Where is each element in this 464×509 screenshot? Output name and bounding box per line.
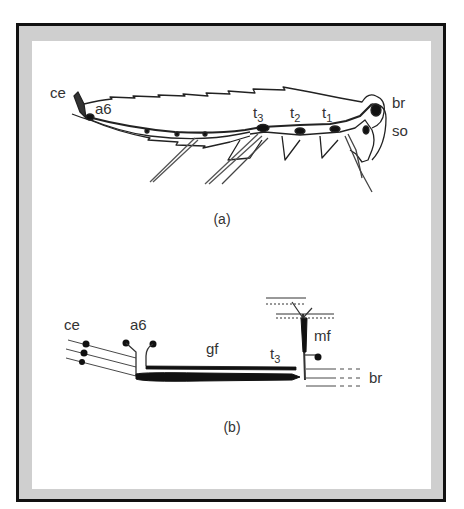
a6-neurite	[126, 343, 136, 376]
sensory-cell	[79, 359, 85, 365]
ganglion	[175, 132, 179, 136]
caption-a: (a)	[213, 211, 230, 227]
motor-fibre	[301, 318, 307, 352]
sensory-cell	[83, 341, 90, 348]
ganglion-a6	[86, 114, 94, 120]
label-t1: t1	[322, 104, 332, 124]
sensory-cell	[81, 350, 88, 357]
label-so: so	[392, 122, 408, 139]
sensory-axon	[66, 349, 136, 367]
label-ce: ce	[50, 84, 66, 101]
insect-illustration	[72, 87, 386, 192]
label-ce-b: ce	[64, 316, 80, 333]
diagram-canvas: ce a6 t3 t2 t1 br so (a)	[0, 0, 464, 509]
label-br-b: br	[369, 369, 382, 386]
mf-cell-body	[315, 354, 322, 361]
label-t3: t3	[253, 104, 263, 124]
leg	[150, 138, 198, 182]
coxa	[282, 136, 300, 160]
label-br: br	[392, 94, 405, 111]
label-gf: gf	[206, 340, 219, 357]
label-a6-b: a6	[130, 316, 147, 333]
label-a6: a6	[95, 100, 112, 117]
ganglion-t1	[330, 126, 340, 132]
ganglion	[203, 132, 207, 136]
label-t3-b: t3	[270, 345, 280, 365]
sensory-axon	[66, 358, 136, 376]
ganglion-t2	[295, 128, 305, 134]
caption-b: (b)	[223, 419, 240, 435]
cercus	[74, 92, 86, 118]
giant-fibre-lower	[136, 373, 300, 382]
ganglion-t3	[257, 125, 269, 132]
fore-leg	[348, 134, 362, 178]
label-t2: t2	[290, 104, 300, 124]
coxa	[320, 136, 338, 158]
ganglion	[145, 129, 149, 133]
label-mf: mf	[314, 327, 331, 344]
giant-fibre-upper	[146, 366, 296, 370]
suboesophageal-ganglion	[363, 126, 369, 134]
